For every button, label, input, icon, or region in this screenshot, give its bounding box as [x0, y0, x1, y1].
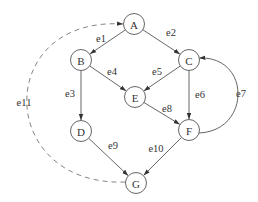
edge-label-e5: e5 — [152, 66, 162, 77]
node-G: G — [126, 173, 147, 194]
node-F: F — [179, 120, 200, 141]
node-C: C — [179, 50, 200, 71]
node-D: D — [71, 121, 92, 142]
node-label: F — [186, 125, 192, 137]
edge-label-e4: e4 — [107, 66, 118, 77]
node-label: D — [77, 126, 85, 138]
node-label: C — [185, 55, 192, 67]
node-label: B — [77, 55, 84, 67]
node-E: E — [125, 87, 146, 108]
nodes-group: ABCEDFG — [71, 14, 200, 194]
edge-label-e9: e9 — [108, 140, 118, 151]
edge-e5 — [144, 66, 180, 91]
edge-label-e6: e6 — [195, 89, 205, 100]
edge-label-e10: e10 — [148, 143, 163, 154]
node-A: A — [124, 14, 145, 35]
edge-label-e2: e2 — [166, 27, 176, 38]
edge-label-e8: e8 — [162, 103, 172, 114]
node-label: G — [132, 178, 140, 190]
edge-e11 — [27, 24, 126, 182]
node-B: B — [71, 50, 92, 71]
node-label: E — [132, 92, 139, 104]
edge-label-e3: e3 — [65, 88, 75, 99]
edge-label-e1: e1 — [96, 33, 106, 44]
graph-diagram: e1e2e3e4e5e6e7e8e9e10e11 ABCEDFG — [0, 0, 258, 202]
edge-label-e11: e11 — [17, 97, 32, 108]
edge-label-e7: e7 — [236, 88, 246, 99]
node-label: A — [130, 19, 138, 31]
